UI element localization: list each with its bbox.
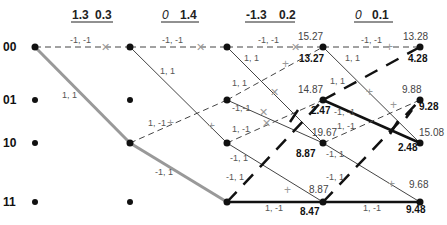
branch-label: -1, -1 (70, 35, 91, 45)
trellis-diagram: 1.3 0.3 0 1.4 -1.3 0.2 0 0.1 00 01 10 11… (0, 0, 447, 225)
branch-label: 1, -1 (148, 118, 166, 128)
state-label-01: 01 (3, 93, 17, 107)
header-stage-4-a: 0 (355, 8, 362, 22)
metric-10-upper: 19.67 (312, 127, 337, 138)
branch-label: 1, -1 (265, 203, 283, 213)
node-t4-01 (417, 97, 424, 104)
header-stage-1-b: 0.3 (95, 8, 112, 22)
state-label-10: 10 (3, 136, 17, 150)
node-t2-10 (224, 140, 231, 147)
survivor-branch-10-11 (130, 143, 227, 202)
metric-00-lower: 4.28 (408, 53, 428, 64)
node-t4-11 (417, 199, 424, 206)
node-t4-00 (417, 44, 424, 51)
plus-mark-icon: + (167, 116, 174, 130)
header-stage-2-b: 1.4 (180, 8, 197, 22)
branch-label: -1, -1 (162, 35, 183, 45)
path-metrics-stage-4: 13.28 4.28 9.88 9.28 15.08 2.48 9.68 9.4… (398, 31, 444, 215)
metric-01-lower: 2.47 (311, 105, 331, 116)
state-labels: 00 01 10 11 (3, 40, 17, 209)
branch-label: -1, 1 (230, 153, 248, 163)
metric-11-lower: 8.47 (300, 206, 320, 217)
node-t1-01 (127, 97, 133, 103)
metric-00-lower: 13.27 (299, 53, 324, 64)
node-t3-01 (320, 97, 327, 104)
node-t2-11 (224, 199, 231, 206)
branch-label: 1, 1 (160, 66, 175, 76)
node-t2-00 (224, 44, 231, 51)
cross-mark-icon: ✕ (101, 41, 110, 53)
branch-label: -1, 1 (226, 172, 244, 182)
metric-00-upper: 13.28 (403, 31, 428, 42)
branch-label: -1, 1 (155, 167, 173, 177)
node-t2-01 (224, 97, 231, 104)
node-t1-00 (127, 44, 134, 51)
header-stage-4-b: 0.1 (372, 8, 389, 22)
metric-01-upper: 9.88 (402, 84, 422, 95)
header-stage-3-b: 0.2 (279, 8, 296, 22)
stage-1-branches: -1, -1 1, 1 ✕ (35, 35, 130, 143)
branch-label: 1, 1 (232, 78, 247, 88)
node-t0-00 (32, 44, 39, 51)
node-t4-10 (417, 140, 424, 147)
metric-01-upper: 14.87 (298, 84, 323, 95)
node-t3-00 (320, 44, 327, 51)
plus-mark-icon: + (386, 40, 393, 54)
branch-label: 1, -1 (232, 124, 250, 134)
metric-00-upper: 15.27 (298, 31, 323, 42)
metric-11-upper: 8.87 (309, 184, 329, 195)
branch-label: -1, 1 (326, 172, 344, 182)
plus-mark-icon: + (366, 85, 373, 99)
cross-mark-icon: ✕ (262, 117, 271, 129)
node-t0-11 (32, 199, 38, 205)
state-label-00: 00 (3, 40, 17, 54)
node-t3-10 (320, 140, 327, 147)
node-t0-10 (32, 140, 38, 146)
plus-mark-icon: + (284, 183, 291, 197)
header-stage-2-a: 0 (162, 8, 169, 22)
branch-label: 1, 1 (62, 90, 77, 100)
cross-mark-icon: ✕ (196, 41, 205, 53)
stage-headers: 1.3 0.3 0 1.4 -1.3 0.2 0 0.1 (71, 8, 393, 22)
branch-label: -1, -1 (258, 35, 279, 45)
stage-4-branches: -1, -1 1, 1 1, 1 -1, -1 1, -1 -1, 1 -1, … (323, 35, 420, 213)
plus-mark-icon: + (390, 98, 397, 112)
plus-mark-icon: + (208, 119, 215, 133)
plus-mark-icon: + (282, 57, 289, 71)
metric-10-lower: 8.87 (296, 148, 316, 159)
branch-label: 1, 1 (345, 53, 360, 63)
metric-11-lower: 9.48 (406, 204, 426, 215)
branch-label: -1, -1 (334, 107, 355, 117)
cross-mark-icon: ✕ (291, 41, 300, 53)
plus-mark-icon: + (388, 177, 395, 191)
state-label-11: 11 (3, 195, 16, 209)
branch-label: -1, -1 (361, 35, 382, 45)
header-stage-1-a: 1.3 (72, 8, 89, 22)
branch-label: -1,-1 (232, 103, 251, 113)
branch-label: 1, 1 (330, 76, 345, 86)
header-stage-3-a: -1.3 (246, 8, 267, 22)
stage-2-branches: -1, -1 1, 1 1, -1 -1, 1 ✕ + + (130, 35, 227, 202)
node-t3-11 (320, 199, 327, 206)
node-t1-11 (127, 199, 133, 205)
metric-11-upper: 9.68 (409, 179, 429, 190)
branch-label: -1, 1 (326, 149, 344, 159)
branch-label: 1, -1 (337, 121, 355, 131)
node-t1-10 (127, 140, 134, 147)
survivor-branch-00-10 (35, 47, 130, 143)
branch-label: 1, 1 (244, 53, 259, 63)
metric-10-lower: 2.48 (398, 142, 418, 153)
cross-mark-icon: ✕ (270, 86, 279, 98)
node-t0-01 (32, 97, 38, 103)
branch-label: 1, -1 (363, 203, 381, 213)
metric-10-upper: 15.08 (419, 127, 444, 138)
